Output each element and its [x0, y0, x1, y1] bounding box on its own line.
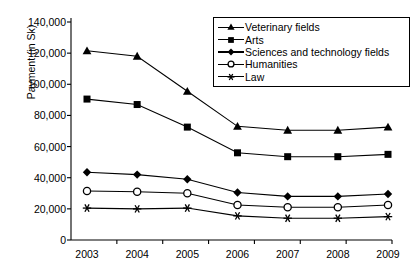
data-marker-filled-square [334, 153, 341, 160]
data-marker-open-circle [184, 190, 191, 197]
data-marker-open-circle [334, 204, 341, 211]
data-marker-asterisk [228, 74, 235, 80]
data-marker-filled-square [228, 37, 234, 43]
data-marker-filled-triangle [227, 24, 234, 30]
legend-marker-filled-triangle-icon [217, 21, 245, 33]
data-marker-asterisk [283, 215, 291, 222]
data-marker-filled-square [284, 153, 291, 160]
legend-marker-filled-diamond-icon [217, 46, 245, 58]
data-marker-open-circle [134, 188, 141, 195]
data-marker-open-circle [83, 187, 90, 194]
data-marker-filled-square [184, 124, 191, 131]
line-chart: Payment (in Sk) 020,00040,00060,00080,00… [0, 0, 418, 277]
data-marker-filled-triangle [233, 122, 242, 130]
data-marker-filled-diamond [384, 190, 392, 198]
data-marker-open-circle [384, 201, 391, 208]
data-marker-asterisk [83, 204, 91, 211]
legend-label: Law [245, 71, 264, 83]
data-marker-filled-square [84, 96, 91, 103]
legend-marker-asterisk-icon [217, 71, 245, 83]
data-marker-open-circle [228, 61, 234, 67]
data-marker-asterisk [334, 215, 342, 222]
chart-legend: Veterinary fieldsArtsSciences and techno… [213, 17, 410, 87]
data-marker-filled-triangle [183, 87, 192, 95]
data-marker-open-circle [234, 201, 241, 208]
data-marker-asterisk [233, 212, 241, 219]
data-marker-filled-diamond [228, 49, 235, 56]
legend-marker-filled-square-icon [217, 34, 245, 46]
data-marker-filled-triangle [83, 46, 92, 54]
legend-item: Veterinary fields [217, 21, 405, 33]
data-marker-filled-square [234, 149, 241, 156]
legend-item: Humanities [217, 58, 405, 70]
data-marker-filled-diamond [83, 168, 91, 176]
data-marker-filled-triangle [384, 123, 393, 131]
legend-label: Sciences and technology fields [245, 46, 389, 58]
legend-item: Arts [217, 33, 405, 45]
legend-label: Veterinary fields [245, 21, 320, 33]
data-marker-asterisk [183, 204, 191, 211]
legend-item: Law [217, 71, 405, 83]
data-marker-filled-diamond [183, 175, 191, 183]
legend-label: Arts [245, 34, 264, 46]
legend-marker-open-circle-icon [217, 58, 245, 70]
data-marker-filled-diamond [334, 192, 342, 200]
data-marker-asterisk [133, 205, 141, 212]
data-marker-filled-diamond [233, 188, 241, 196]
legend-item: Sciences and technology fields [217, 46, 405, 58]
data-marker-asterisk [384, 213, 392, 220]
series-2 [83, 168, 392, 201]
data-marker-open-circle [284, 204, 291, 211]
data-marker-filled-diamond [133, 170, 141, 178]
data-marker-filled-square [134, 101, 141, 108]
data-marker-filled-diamond [283, 192, 291, 200]
legend-label: Humanities [245, 58, 298, 70]
data-marker-filled-square [385, 151, 392, 158]
